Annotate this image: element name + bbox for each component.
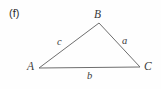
vertex-label-b: B: [94, 9, 101, 21]
vertex-label-a: A: [27, 61, 34, 73]
vertex-label-c: C: [144, 61, 152, 73]
figure-panel: (f) A B C c a b: [0, 0, 161, 89]
side-label-c: c: [57, 37, 62, 48]
side-label-b: b: [87, 71, 92, 82]
triangle-diagram: [0, 0, 161, 89]
side-label-a: a: [122, 36, 127, 47]
